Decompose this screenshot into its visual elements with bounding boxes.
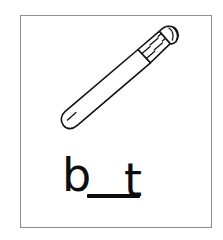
word-puzzle: b t bbox=[20, 148, 212, 208]
baseball-bat-illustration bbox=[20, 15, 212, 165]
word-first-letter: b bbox=[62, 152, 91, 198]
baseball-bat-icon bbox=[20, 15, 212, 165]
word-last-letter: t bbox=[124, 157, 142, 203]
phonics-card: b t bbox=[0, 0, 223, 240]
